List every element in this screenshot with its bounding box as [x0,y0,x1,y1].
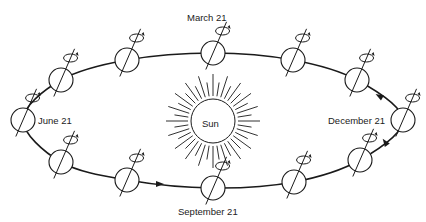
earth-icon [201,22,231,70]
march-21-label: March 21 [187,12,227,23]
earth-icon [115,29,145,77]
june-21-label: June 21 [38,115,72,126]
sun-label: Sun [202,118,219,129]
earth-icon [115,149,145,197]
earth-icon [49,131,79,179]
earth-icon [391,89,421,137]
orbit-graphic [0,0,426,222]
earth-icon [49,49,79,97]
earth-icon [201,157,231,205]
earth-icon [282,151,312,199]
orbit-diagram: Sun March 21 June 21 September 21 Decemb… [0,0,426,222]
earth-icon [11,89,41,137]
december-21-label: December 21 [328,115,385,126]
september-21-label: September 21 [178,206,238,217]
earth-icon [345,49,375,97]
earth-icon [281,29,311,77]
